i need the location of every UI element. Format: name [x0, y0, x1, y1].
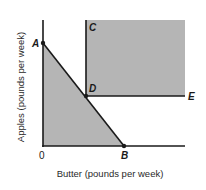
y-axis-title: Apples (pounds per week)	[15, 32, 26, 142]
point-e-label: E	[188, 91, 195, 102]
point-d-marker	[84, 94, 88, 98]
x-axis-title: Butter (pounds per week)	[57, 168, 164, 179]
point-d-label: D	[89, 83, 96, 94]
point-c-label: C	[89, 22, 97, 33]
point-a-label: A	[31, 38, 39, 49]
origin-label: 0	[39, 150, 45, 161]
point-a-marker	[41, 41, 45, 45]
preferred-region	[86, 20, 185, 96]
point-b-label: B	[121, 150, 128, 161]
diagram-canvas: A C D E B 0 Butter (pounds per week) App…	[0, 0, 206, 190]
point-b-marker	[122, 144, 126, 148]
